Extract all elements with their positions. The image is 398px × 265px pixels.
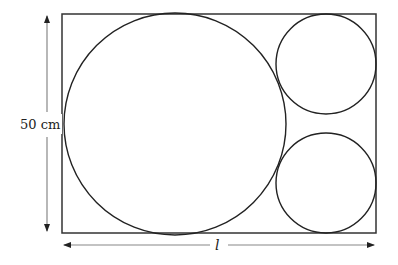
rectangle-outline: [62, 14, 376, 233]
small-circle-top: [276, 14, 376, 114]
height-label: 50 cm: [20, 117, 60, 132]
length-label: l: [215, 237, 219, 253]
small-circle-bottom: [276, 133, 376, 233]
large-circle: [64, 13, 286, 235]
diagram-canvas: 50 cm l: [0, 0, 398, 265]
